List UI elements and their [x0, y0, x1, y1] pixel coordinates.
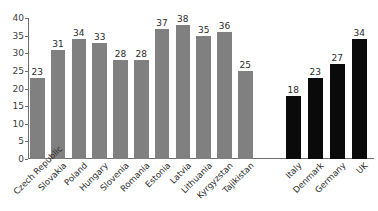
- bar-value-label: 27: [332, 54, 343, 63]
- bar[interactable]: 35: [196, 36, 211, 159]
- bar-value-label: 36: [219, 22, 230, 31]
- bar[interactable]: 23: [308, 78, 323, 159]
- bar[interactable]: 23: [30, 78, 45, 159]
- y-tick-label: 0: [2, 155, 24, 164]
- bar-value-label: 18: [288, 86, 299, 95]
- bar-value-label: 34: [354, 29, 365, 38]
- bar-value-label: 23: [310, 68, 321, 77]
- bar[interactable]: 33: [92, 43, 107, 159]
- y-tick-label: 30: [2, 49, 24, 58]
- y-tick-label: 5: [2, 137, 24, 146]
- y-tick-label: 15: [2, 102, 24, 111]
- bar[interactable]: 27: [330, 64, 345, 159]
- y-tick-label: 10: [2, 119, 24, 128]
- bar[interactable]: 37: [155, 29, 170, 159]
- y-tick-label: 25: [2, 66, 24, 75]
- bar[interactable]: 28: [113, 60, 128, 159]
- bar-value-label: 28: [136, 50, 147, 59]
- bar[interactable]: 25: [238, 71, 253, 159]
- bar-value-label: 33: [94, 33, 105, 42]
- bar-value-label: 31: [52, 40, 63, 49]
- y-tick-label: 40: [2, 14, 24, 23]
- bar[interactable]: 36: [217, 32, 232, 159]
- bar-value-label: 35: [198, 26, 209, 35]
- bar[interactable]: 18: [286, 96, 301, 159]
- bar[interactable]: 34: [352, 39, 367, 159]
- bar-value-label: 34: [73, 29, 84, 38]
- bar-value-label: 23: [32, 68, 43, 77]
- bar[interactable]: 31: [51, 50, 66, 159]
- bar-value-label: 38: [177, 15, 188, 24]
- y-tick-label: 20: [2, 84, 24, 93]
- bar[interactable]: 34: [72, 39, 87, 159]
- bar-value-label: 37: [156, 19, 167, 28]
- bar[interactable]: 28: [134, 60, 149, 159]
- bar-value-label: 25: [240, 61, 251, 70]
- bars-layer: 233134332828373835362518232734: [28, 18, 374, 159]
- bar-value-label: 28: [115, 50, 126, 59]
- bar[interactable]: 38: [176, 25, 191, 159]
- y-tick-mark: [25, 159, 28, 160]
- y-tick-label: 35: [2, 31, 24, 40]
- bar-chart: 0510152025303540 23313433282837383536251…: [0, 0, 378, 211]
